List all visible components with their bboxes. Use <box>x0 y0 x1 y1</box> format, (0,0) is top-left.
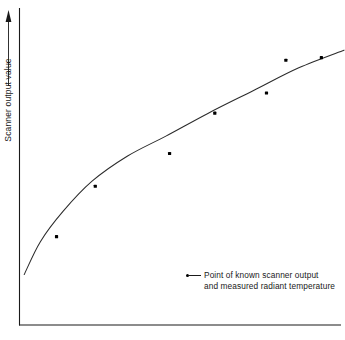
legend-label-line-2: and measured radiant temperature <box>182 281 335 292</box>
legend-marker-dot-line-icon <box>182 270 204 281</box>
scanner-calibration-chart: Scanner output value Point of known scan… <box>0 0 345 340</box>
legend: Point of known scanner output and measur… <box>182 270 335 292</box>
data-point <box>284 59 287 62</box>
data-point <box>55 235 58 238</box>
data-point-group <box>55 56 323 238</box>
data-point <box>213 112 216 115</box>
fitted-curve <box>24 50 344 274</box>
legend-line-icon <box>189 275 201 276</box>
data-point <box>320 56 323 59</box>
y-axis-title-text: Scanner output value <box>3 58 13 141</box>
data-point <box>168 152 171 155</box>
y-axis-title: Scanner output value <box>0 0 16 200</box>
legend-label-line-1: Point of known scanner output <box>204 270 319 281</box>
data-point <box>94 185 97 188</box>
data-point <box>265 91 268 94</box>
legend-item: Point of known scanner output <box>182 270 335 281</box>
